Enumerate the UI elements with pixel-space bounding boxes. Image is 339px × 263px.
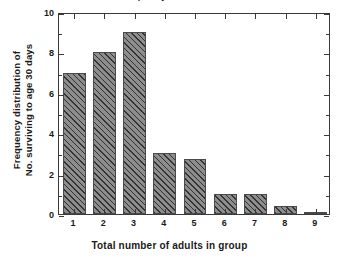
y-axis-tick-labels: 0246810 (30, 13, 54, 215)
x-axis-tick-labels: 123456789 (58, 218, 330, 232)
x-axis-tick-label-4: 4 (161, 218, 166, 228)
y-axis-major-tick (59, 135, 64, 136)
x-axis-tick-label-9: 9 (312, 218, 317, 228)
x-axis-tick (225, 209, 226, 214)
y-axis-minor-tick (59, 34, 62, 35)
x-axis-tick-label-8: 8 (282, 218, 287, 228)
y-axis-major-tick (324, 95, 329, 96)
plot-area (58, 13, 330, 215)
y-axis-tick-label-2: 4 (49, 129, 54, 139)
bar-2 (93, 52, 116, 214)
y-axis-minor-tick (59, 115, 62, 116)
y-axis-major-tick (324, 176, 329, 177)
y-axis-major-tick (324, 14, 329, 15)
bar-4 (153, 153, 176, 214)
x-axis-tick (165, 14, 166, 19)
y-axis-tick-label-1: 2 (49, 170, 54, 180)
x-axis-tick-label-3: 3 (131, 218, 136, 228)
y-axis-minor-tick (59, 75, 62, 76)
y-axis-minor-tick (326, 75, 329, 76)
chart-figure: Frequency distribution Frequency distrib… (0, 0, 339, 263)
x-axis-tick-label-1: 1 (71, 218, 76, 228)
x-axis-tick (286, 14, 287, 19)
x-axis-tick (74, 209, 75, 214)
bar-3 (123, 32, 146, 214)
x-axis-tick (104, 14, 105, 19)
x-axis-tick (135, 209, 136, 214)
bar-1 (63, 73, 86, 214)
y-axis-minor-tick (59, 155, 62, 156)
y-axis-minor-tick (59, 196, 62, 197)
x-axis-tick (195, 209, 196, 214)
x-axis-tick (135, 14, 136, 19)
x-axis-title: Total number of adults in group (0, 240, 339, 251)
x-axis-tick (74, 14, 75, 19)
y-axis-minor-tick (326, 196, 329, 197)
y-axis-title-line-1: Frequency distribution of (11, 51, 23, 169)
y-axis-major-tick (59, 95, 64, 96)
y-axis-major-tick (59, 216, 64, 217)
y-axis-tick-label-0: 0 (49, 210, 54, 220)
x-axis-tick (255, 209, 256, 214)
bar-series (59, 14, 329, 214)
y-axis-major-tick (59, 176, 64, 177)
x-axis-tick (286, 209, 287, 214)
x-axis-tick-label-5: 5 (191, 218, 196, 228)
y-axis-tick-label-5: 10 (44, 8, 54, 18)
y-axis-major-tick (324, 135, 329, 136)
y-axis-major-tick (59, 14, 64, 15)
x-axis-tick-label-7: 7 (252, 218, 257, 228)
x-axis-tick (225, 14, 226, 19)
chart-title: Frequency distribution (0, 0, 339, 1)
y-axis-tick-label-3: 6 (49, 89, 54, 99)
bar-5 (184, 159, 207, 214)
y-axis-minor-tick (326, 115, 329, 116)
x-axis-tick (165, 209, 166, 214)
y-axis-minor-tick (326, 155, 329, 156)
y-axis-major-tick (324, 216, 329, 217)
x-axis-tick (316, 14, 317, 19)
x-axis-tick (195, 14, 196, 19)
x-axis-tick-label-6: 6 (222, 218, 227, 228)
x-axis-tick (316, 209, 317, 214)
x-axis-tick (104, 209, 105, 214)
x-axis-tick-label-2: 2 (101, 218, 106, 228)
y-axis-minor-tick (326, 34, 329, 35)
y-axis-major-tick (324, 54, 329, 55)
y-axis-tick-label-4: 8 (49, 48, 54, 58)
x-axis-tick (255, 14, 256, 19)
y-axis-major-tick (59, 54, 64, 55)
